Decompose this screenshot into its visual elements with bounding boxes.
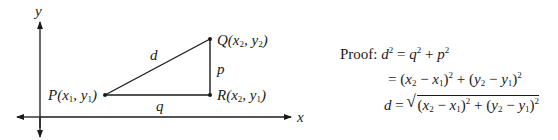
point-p-dot: [103, 93, 107, 97]
point-p-label: P(x1, y1): [48, 88, 97, 104]
proof-line-3: d = (x2 − x1)2 + (y2 − y1)2: [384, 95, 539, 114]
point-q-dot: [208, 37, 212, 41]
proof-label: Proof:: [340, 46, 378, 62]
coordinate-diagram: [0, 0, 330, 140]
proof-line-1: Proof: d2 = q2 + p2: [340, 46, 449, 62]
side-p-label: p: [217, 62, 225, 77]
point-r-dot: [208, 93, 212, 97]
point-r-label: R(x2, y1): [217, 88, 266, 104]
side-d-label: d: [150, 48, 158, 63]
point-q-label: Q(x2, y2): [217, 33, 268, 49]
triangle: [103, 37, 212, 97]
x-axis-label: x: [297, 110, 304, 125]
y-axis-label: y: [35, 4, 42, 19]
proof-line-2: = (x2 − x1)2 + (y2 − y1)2: [388, 71, 522, 88]
side-q-label: q: [156, 99, 164, 114]
